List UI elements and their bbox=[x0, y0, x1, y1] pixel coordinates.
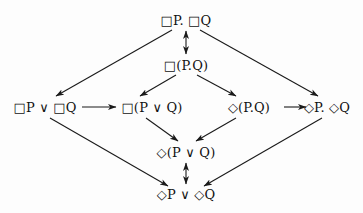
node-diamond-p-or-diamond-q: ◇P ∨ ◇Q bbox=[157, 188, 216, 201]
edge-box-and-to-diamond-and bbox=[197, 75, 236, 96]
edge-box-disj-to-diamond-disj bbox=[50, 118, 168, 186]
node-box-p-or-q: □(P ∨ Q) bbox=[121, 101, 182, 114]
edge-diamond-conj-to-diamond-disj bbox=[204, 118, 322, 186]
node-box-p-or-box-q: □P ∨ □Q bbox=[13, 101, 76, 114]
edge-diamond-and-to-diamond-or bbox=[196, 118, 236, 141]
node-box-p-and-q: □(P.Q) bbox=[164, 59, 209, 72]
edge-box-or-to-diamond-or bbox=[146, 118, 178, 141]
node-diamond-p-or-q: ◇(P ∨ Q) bbox=[157, 146, 216, 159]
node-box-p-and-box-q: □P. □Q bbox=[161, 14, 212, 27]
edge-box-and-to-box-or bbox=[140, 75, 176, 96]
modal-logic-lattice-diagram: □P. □Q □(P.Q) □P ∨ □Q □(P ∨ Q) ◇(P.Q) ◇P… bbox=[0, 0, 363, 213]
edge-box-conj-to-box-disj bbox=[56, 30, 172, 96]
node-diamond-p-and-diamond-q: ◇P. ◇Q bbox=[304, 101, 350, 114]
node-diamond-p-and-q: ◇(P.Q) bbox=[228, 101, 270, 114]
